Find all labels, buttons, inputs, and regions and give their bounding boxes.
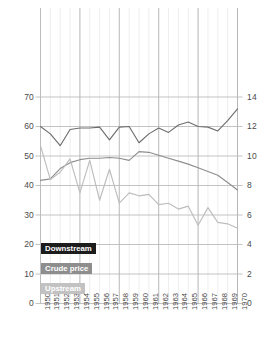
chart-container: 010203040506070 02468101214 195019511952… xyxy=(0,0,273,359)
left-axis-tick-10: 10 xyxy=(6,270,34,279)
legend-label-downstream: Downstream xyxy=(45,245,92,253)
right-axis-tick-14: 14 xyxy=(247,93,271,102)
legend-label-crude-price: Crude price xyxy=(45,265,88,273)
left-axis-tick-0: 0 xyxy=(6,299,34,308)
x-axis-tick-1958: 1958 xyxy=(122,293,130,310)
right-axis-tick-6: 6 xyxy=(247,211,271,220)
x-axis-tick-1963: 1963 xyxy=(172,293,180,310)
legend-item-crude-price[interactable]: Crude price xyxy=(41,263,92,274)
x-axis-tick-1961: 1961 xyxy=(152,293,160,310)
right-axis-tick-0: 0 xyxy=(247,299,271,308)
x-axis-tick-1969: 1969 xyxy=(231,293,239,310)
x-axis-tick-1953: 1953 xyxy=(73,293,81,310)
right-axis-tick-12: 12 xyxy=(247,122,271,131)
right-axis-tick-2: 2 xyxy=(247,270,271,279)
x-axis-tick-1968: 1968 xyxy=(221,293,229,310)
left-axis-tick-60: 60 xyxy=(6,122,34,131)
x-axis-tick-1957: 1957 xyxy=(112,293,120,310)
right-axis-tick-8: 8 xyxy=(247,181,271,190)
left-axis-tick-70: 70 xyxy=(6,93,34,102)
left-axis-tick-50: 50 xyxy=(6,152,34,161)
legend-label-upstream: Upstream xyxy=(45,285,81,293)
x-axis-tick-1951: 1951 xyxy=(53,293,61,310)
legend-item-upstream[interactable]: Upstream xyxy=(41,283,85,294)
right-axis-tick-4: 4 xyxy=(247,240,271,249)
left-axis-tick-30: 30 xyxy=(6,211,34,220)
x-axis-tick-1965: 1965 xyxy=(191,293,199,310)
x-axis-tick-1964: 1964 xyxy=(181,293,189,310)
left-axis-tick-40: 40 xyxy=(6,181,34,190)
x-axis-tick-1955: 1955 xyxy=(93,293,101,310)
legend-item-downstream[interactable]: Downstream xyxy=(41,243,96,254)
x-axis-tick-1960: 1960 xyxy=(142,293,150,310)
x-axis-tick-1970: 1970 xyxy=(241,293,249,310)
x-axis-tick-1959: 1959 xyxy=(132,293,140,310)
right-axis-tick-10: 10 xyxy=(247,152,271,161)
x-axis-tick-1952: 1952 xyxy=(63,293,71,310)
x-axis-tick-1967: 1967 xyxy=(211,293,219,310)
left-axis-tick-20: 20 xyxy=(6,240,34,249)
x-axis-tick-1962: 1962 xyxy=(162,293,170,310)
x-axis-tick-1966: 1966 xyxy=(201,293,209,310)
x-axis-tick-1950: 1950 xyxy=(44,293,52,310)
x-axis-tick-1956: 1956 xyxy=(103,293,111,310)
x-axis-tick-1954: 1954 xyxy=(83,293,91,310)
